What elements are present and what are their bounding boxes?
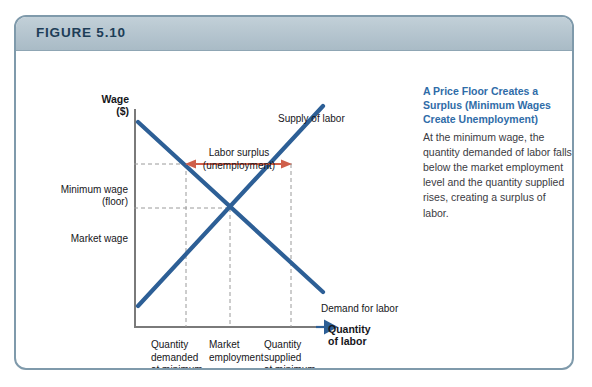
labor-surplus-line2: (unemployment)	[203, 160, 275, 171]
caption-body: At the minimum wage, the quantity demand…	[423, 130, 573, 221]
y-tick-minimum-wage: Minimum wage (floor)	[36, 184, 128, 208]
x-axis-title-line2: of labor	[328, 335, 367, 347]
y-tick-market-wage: Market wage	[36, 233, 128, 245]
x-tick-qs-line2: supplied	[264, 352, 301, 363]
y-axis-title: Wage ($)	[74, 93, 129, 117]
x-tick-qs-line1: Quantity	[264, 339, 301, 350]
demand-curve-label: Demand for labor	[321, 303, 398, 314]
figure-card: FIGURE 5.10	[14, 15, 574, 370]
x-tick-qe-line2: employment	[209, 352, 263, 363]
x-axis-title-line1: Quantity	[328, 323, 371, 335]
x-tick-market-employment: Market employment	[209, 339, 271, 364]
x-tick-quantity-demanded: Quantity demanded at minimum wage	[151, 339, 213, 370]
x-tick-qd-line1: Quantity	[151, 339, 188, 350]
figure-number: FIGURE 5.10	[36, 25, 126, 40]
x-tick-qd-line2: demanded	[151, 352, 198, 363]
supply-curve-label: Supply of labor	[278, 113, 345, 124]
x-axis-title: Quantity of labor	[328, 323, 398, 347]
y-axis-title-line1: Wage	[101, 93, 129, 105]
x-tick-quantity-supplied: Quantity supplied at minimum wage	[264, 339, 326, 370]
y-tick-minimum-wage-line2: (floor)	[102, 196, 128, 207]
y-axis-title-line2: ($)	[116, 105, 129, 117]
x-tick-qd-line3: at minimum	[151, 364, 203, 370]
figure-caption: A Price Floor Creates a Surplus (Minimum…	[423, 85, 573, 221]
supply-curve	[138, 106, 323, 306]
x-tick-qe-line1: Market	[209, 339, 240, 350]
labor-surplus-annotation: Labor surplus (unemployment)	[174, 147, 304, 172]
labor-surplus-line1: Labor surplus	[209, 147, 270, 158]
chart-plot-area: Wage ($) Quantity of labor Minimum wage …	[16, 51, 411, 370]
y-tick-minimum-wage-line1: Minimum wage	[61, 184, 128, 195]
figure-header-band: FIGURE 5.10	[16, 17, 572, 51]
x-tick-qs-line3: at minimum	[264, 364, 316, 370]
caption-title: A Price Floor Creates a Surplus (Minimum…	[423, 85, 573, 127]
